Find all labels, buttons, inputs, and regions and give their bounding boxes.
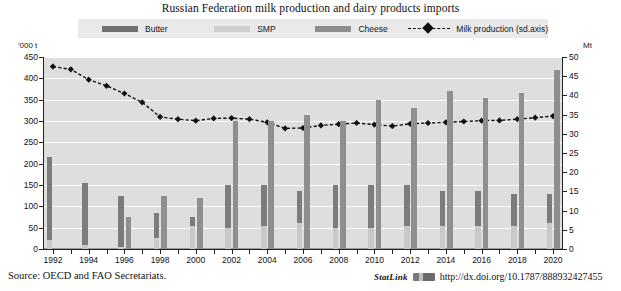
- x-axis-tick: [178, 250, 179, 254]
- milk-production-marker-1999: [175, 116, 181, 122]
- x-axis-tick: [321, 250, 322, 254]
- y-axis-left-tick-label: 450: [6, 52, 38, 62]
- x-axis-tick-label: 1996: [107, 255, 141, 265]
- legend-item-smp[interactable]: SMP: [196, 19, 305, 38]
- statlink-url[interactable]: http://dx.doi.org/10.1787/888932427455: [440, 271, 603, 282]
- y-axis-left-tick-label: 400: [6, 73, 38, 83]
- x-axis-tick-label: 2014: [429, 255, 463, 265]
- y-axis-right-tick: [563, 95, 567, 96]
- statlink-label: StatLink: [374, 272, 408, 282]
- x-axis-tick: [392, 250, 393, 254]
- y-axis-left-unit: '000 t: [18, 41, 37, 50]
- y-axis-left: [43, 57, 44, 250]
- y-axis-left-tick-label: 200: [6, 159, 38, 169]
- x-axis-tick-label: 1994: [72, 255, 106, 265]
- milk-production-marker-2007: [318, 122, 324, 128]
- x-axis-tick: [124, 250, 125, 254]
- bar-smp-1992: [47, 240, 53, 249]
- milk-production-marker-2000: [193, 118, 199, 124]
- x-axis-tick-label: 2006: [286, 255, 320, 265]
- x-axis-tick: [142, 250, 143, 254]
- bar-butter-1992: [47, 157, 53, 249]
- bar-smp-2018: [511, 226, 517, 249]
- y-axis-left-tick-label: 350: [6, 95, 38, 105]
- y-axis-left-tick: [39, 206, 43, 207]
- x-axis-tick: [339, 250, 340, 254]
- x-axis-tick: [482, 250, 483, 254]
- bar-cheese-2012: [411, 108, 417, 249]
- bar-cheese-2016: [483, 98, 489, 249]
- legend-item-milk-production[interactable]: Milk production (sd.axis): [402, 19, 548, 38]
- y-axis-left-tick: [39, 57, 43, 58]
- x-axis-tick: [357, 250, 358, 254]
- y-axis-right-tick-label: 20: [569, 167, 593, 177]
- y-axis-right-tick: [563, 57, 567, 58]
- y-axis-right-tick-label: 0: [569, 244, 593, 254]
- y-axis-right-unit: Mt: [583, 41, 592, 50]
- x-axis-tick-label: 1992: [36, 255, 70, 265]
- page-title: Russian Federation milk production and d…: [0, 2, 621, 14]
- legend-item-cheese[interactable]: Cheese: [305, 19, 402, 38]
- y-axis-left-tick: [39, 100, 43, 101]
- x-axis-tick-label: 2002: [215, 255, 249, 265]
- bar-smp-2008: [333, 228, 339, 249]
- statlink[interactable]: StatLink http://dx.doi.org/10.1787/88893…: [374, 271, 603, 282]
- y-axis-right-tick: [563, 153, 567, 154]
- x-axis-tick-label: 2018: [500, 255, 534, 265]
- y-axis-left-tick: [39, 164, 43, 165]
- x-axis-tick: [285, 250, 286, 254]
- x-axis-tick: [499, 250, 500, 254]
- x-axis-tick: [303, 250, 304, 254]
- y-axis-right-tick-label: 15: [569, 186, 593, 196]
- y-axis-left-tick: [39, 228, 43, 229]
- y-axis-left-tick-label: 0: [6, 244, 38, 254]
- bar-smp-2006: [297, 223, 303, 249]
- legend-swatch-butter-icon: [102, 26, 138, 32]
- x-axis-tick: [553, 250, 554, 254]
- y-axis-right-tick: [563, 249, 567, 250]
- legend-swatch-smp-icon: [214, 26, 250, 32]
- milk-production-marker-1995: [103, 83, 109, 89]
- y-axis-left-tick: [39, 121, 43, 122]
- legend-label-butter: Butter: [145, 24, 168, 34]
- x-axis-tick: [196, 250, 197, 254]
- legend-marker-milk-icon: [408, 24, 450, 33]
- y-axis-right-tick-label: 45: [569, 71, 593, 81]
- bar-cheese-2020: [554, 70, 560, 249]
- bar-cheese-2006: [304, 115, 310, 249]
- y-axis-right-tick: [563, 115, 567, 116]
- y-axis-left-tick-label: 250: [6, 137, 38, 147]
- milk-production-marker-2005: [282, 125, 288, 131]
- bar-smp-2010: [368, 228, 374, 249]
- legend-label-milk-production: Milk production (sd.axis): [456, 24, 548, 34]
- y-axis-left-tick: [39, 185, 43, 186]
- bar-smp-2004: [261, 226, 267, 249]
- milk-production-marker-2019: [532, 115, 538, 121]
- plot-area: [44, 57, 562, 249]
- milk-production-marker-2003: [246, 116, 252, 122]
- x-axis-tick-label: 2008: [322, 255, 356, 265]
- bar-smp-2016: [475, 226, 481, 249]
- x-axis-tick: [410, 250, 411, 254]
- milk-production-marker-1993: [68, 66, 74, 72]
- bar-cheese-2018: [519, 93, 525, 249]
- bar-smp-2012: [404, 226, 410, 249]
- y-axis-right-tick: [563, 211, 567, 212]
- bar-cheese-2008: [340, 121, 346, 249]
- y-axis-right-tick-label: 30: [569, 129, 593, 139]
- legend-label-cheese: Cheese: [358, 24, 387, 34]
- bar-cheese-2010: [376, 100, 382, 249]
- legend-item-butter[interactable]: Butter: [78, 19, 196, 38]
- y-axis-right-tick: [563, 172, 567, 173]
- y-axis-left-tick-label: 50: [6, 223, 38, 233]
- legend-swatch-cheese-icon: [315, 26, 351, 32]
- bar-smp-2014: [440, 226, 446, 249]
- x-axis-tick-label: 2012: [393, 255, 427, 265]
- bar-cheese-2014: [447, 91, 453, 249]
- milk-production-marker-2009: [353, 120, 359, 126]
- y-axis-right-tick: [563, 76, 567, 77]
- x-axis-tick: [428, 250, 429, 254]
- x-axis-tick: [535, 250, 536, 254]
- x-axis-tick-label: 2020: [536, 255, 570, 265]
- bar-cheese-2000: [197, 198, 203, 249]
